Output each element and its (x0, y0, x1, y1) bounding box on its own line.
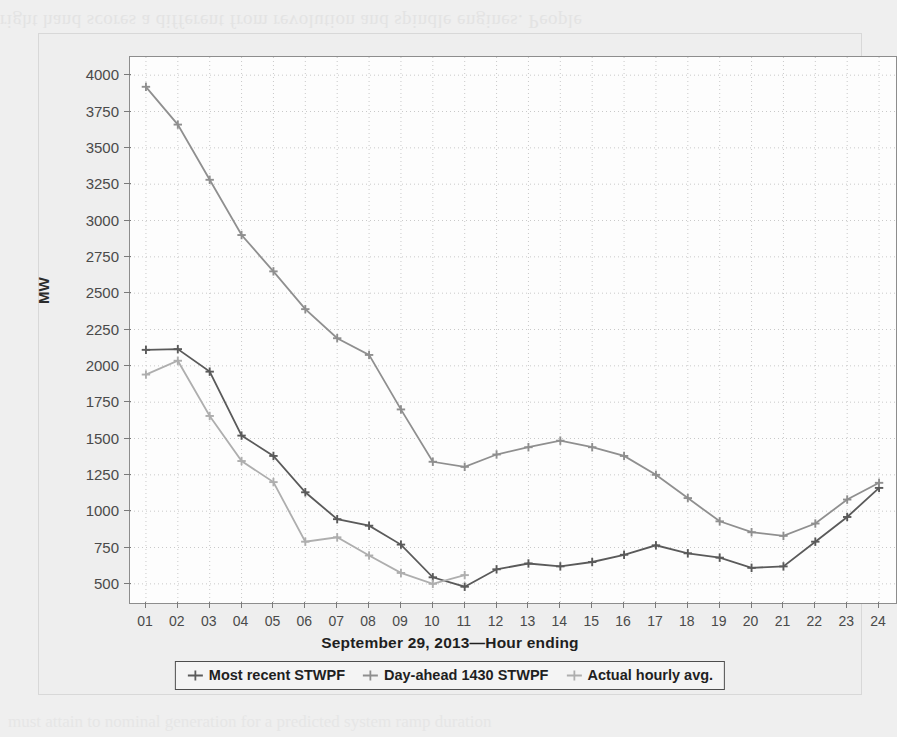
y-tick-label: 1750 (86, 393, 119, 410)
legend-label: Actual hourly avg. (587, 667, 713, 683)
x-tick-mark (878, 602, 879, 608)
legend-item[interactable]: Most recent STWPF (187, 667, 345, 683)
x-tick-mark (687, 602, 688, 608)
x-tick-label: 16 (615, 613, 631, 629)
y-tick-mark (124, 111, 131, 112)
x-tick-label: 22 (807, 613, 823, 629)
x-tick-label: 12 (488, 613, 504, 629)
x-tick-label: 08 (360, 613, 376, 629)
legend-marker-icon (565, 669, 582, 682)
x-tick-label: 21 (775, 613, 791, 629)
y-axis-title: MW (35, 277, 52, 304)
y-tick-label: 2250 (86, 320, 119, 337)
x-tick-mark (400, 602, 401, 608)
x-tick-mark (623, 602, 624, 608)
x-tick-mark (559, 602, 560, 608)
y-tick-label: 2000 (86, 356, 119, 373)
x-tick-label: 18 (679, 613, 695, 629)
x-tick-mark (336, 602, 337, 608)
y-tick-mark (124, 510, 131, 511)
y-tick-label: 750 (94, 538, 119, 555)
x-tick-mark (782, 602, 783, 608)
x-tick-mark (464, 602, 465, 608)
legend-item[interactable]: Day-ahead 1430 STWPF (362, 667, 548, 683)
x-tick-label: 05 (265, 613, 281, 629)
y-tick-mark (124, 74, 131, 75)
x-tick-mark (432, 602, 433, 608)
y-tick-label: 3250 (86, 175, 119, 192)
y-tick-label: 3750 (86, 102, 119, 119)
x-tick-mark (846, 602, 847, 608)
y-tick-mark (124, 438, 131, 439)
x-tick-label: 17 (647, 613, 663, 629)
x-tick-label: 02 (169, 613, 185, 629)
x-tick-mark (304, 602, 305, 608)
x-tick-mark (751, 602, 752, 608)
y-tick-mark (124, 220, 131, 221)
x-tick-label: 15 (583, 613, 599, 629)
x-tick-mark (655, 602, 656, 608)
y-tick-mark (124, 474, 131, 475)
x-tick-mark (368, 602, 369, 608)
page-bleed-text-top: right hand scores a different from revol… (0, 2, 897, 32)
y-tick-label: 2500 (86, 284, 119, 301)
x-tick-mark (272, 602, 273, 608)
y-tick-mark (124, 547, 131, 548)
x-tick-label: 10 (424, 613, 440, 629)
y-tick-mark (124, 256, 131, 257)
x-tick-label: 06 (297, 613, 313, 629)
x-tick-label: 07 (328, 613, 344, 629)
x-tick-mark (209, 602, 210, 608)
x-tick-label: 01 (137, 613, 153, 629)
legend-label: Day-ahead 1430 STWPF (384, 667, 548, 683)
x-tick-mark (814, 602, 815, 608)
x-axis-title: September 29, 2013—Hour ending (39, 634, 861, 652)
x-tick-mark (719, 602, 720, 608)
x-tick-mark (177, 602, 178, 608)
x-tick-label: 04 (233, 613, 249, 629)
x-tick-label: 23 (838, 613, 854, 629)
y-tick-label: 1500 (86, 429, 119, 446)
x-tick-mark (527, 602, 528, 608)
y-tick-mark (124, 183, 131, 184)
y-tick-label: 500 (94, 574, 119, 591)
y-tick-label: 3000 (86, 211, 119, 228)
chart-figure: MW 4000375035003250300027502500225020001… (38, 33, 862, 695)
x-tick-label: 14 (552, 613, 568, 629)
x-tick-label: 03 (201, 613, 217, 629)
y-tick-label: 1000 (86, 502, 119, 519)
x-tick-label: 20 (743, 613, 759, 629)
y-tick-label: 4000 (86, 66, 119, 83)
y-tick-mark (124, 329, 131, 330)
x-tick-mark (591, 602, 592, 608)
x-tick-label: 24 (870, 613, 886, 629)
plot-area (129, 56, 897, 604)
y-tick-label: 1250 (86, 465, 119, 482)
y-tick-label: 3500 (86, 138, 119, 155)
x-tick-label: 09 (392, 613, 408, 629)
y-tick-label: 2750 (86, 247, 119, 264)
legend-label: Most recent STWPF (209, 667, 345, 683)
x-tick-mark (241, 602, 242, 608)
legend-marker-icon (362, 669, 379, 682)
x-tick-label: 11 (456, 613, 471, 629)
chart-legend: Most recent STWPFDay-ahead 1430 STWPFAct… (175, 661, 725, 690)
y-tick-mark (124, 365, 131, 366)
x-tick-label: 13 (520, 613, 536, 629)
x-tick-mark (496, 602, 497, 608)
legend-marker-icon (187, 669, 204, 682)
chart-canvas (130, 57, 895, 602)
page-bleed-text-bottom: must attain to nominal generation for a … (8, 712, 888, 736)
y-tick-mark (124, 583, 131, 584)
x-tick-label: 19 (711, 613, 727, 629)
x-tick-mark (145, 602, 146, 608)
legend-item[interactable]: Actual hourly avg. (565, 667, 713, 683)
y-tick-mark (124, 401, 131, 402)
y-tick-mark (124, 292, 131, 293)
y-tick-mark (124, 147, 131, 148)
